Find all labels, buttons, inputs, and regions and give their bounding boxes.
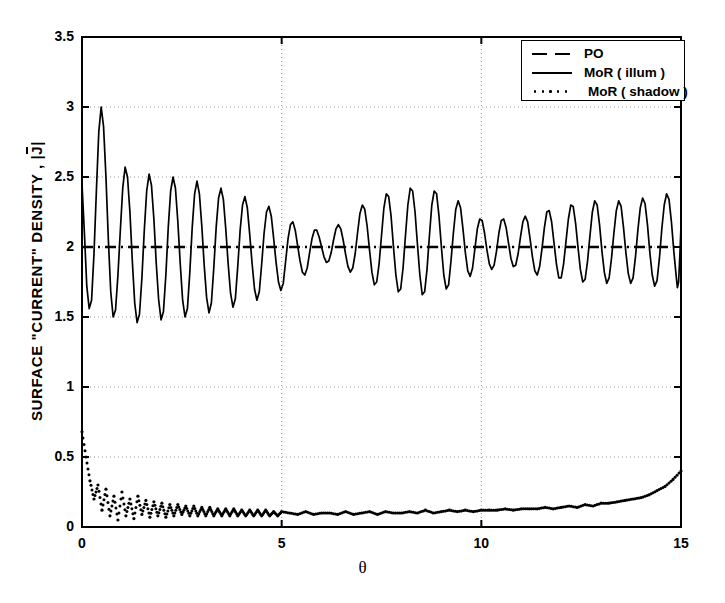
series-MoR ( shadow ) (80, 430, 682, 521)
legend-swatch-dotted (530, 85, 580, 99)
axis-tickmarks (82, 37, 681, 527)
legend-item-mor-shadow: MoR ( shadow ) (530, 82, 688, 101)
legend-item-mor-illum: MoR ( illum ) (530, 63, 665, 82)
x-tick-label: 0 (62, 535, 102, 551)
x-axis-label: θ (0, 558, 725, 578)
gridlines (82, 37, 681, 527)
y-tick-label: 1 (28, 378, 74, 394)
chart-legend: PO MoR ( illum ) MoR ( shadow ) (521, 40, 685, 101)
y-axis-label: SURFACE "CURRENT" DENSITY , |J| (27, 71, 45, 491)
data-series (80, 107, 682, 522)
series-MoR ( illum ) (82, 107, 681, 323)
x-tick-label: 5 (262, 535, 302, 551)
figure-container: SURFACE "CURRENT" DENSITY , |J| θ 00.511… (0, 0, 725, 603)
y-tick-label: 0 (28, 518, 74, 534)
legend-swatch-dashed (530, 47, 576, 61)
legend-item-po: PO (530, 44, 604, 63)
x-tick-label: 10 (461, 535, 501, 551)
y-tick-label: 3.5 (28, 28, 74, 44)
y-tick-label: 0.5 (28, 448, 74, 464)
j-vector-symbol: J (27, 146, 45, 155)
legend-label-po: PO (584, 46, 604, 61)
legend-label-mor-illum: MoR ( illum ) (584, 65, 665, 80)
y-tick-label: 2.5 (28, 168, 74, 184)
y-tick-label: 2 (28, 238, 74, 254)
plot-frame (82, 37, 681, 527)
y-tick-label: 1.5 (28, 308, 74, 324)
x-tick-label: 15 (661, 535, 701, 551)
legend-swatch-solid (530, 66, 576, 80)
y-tick-label: 3 (28, 98, 74, 114)
legend-label-mor-shadow: MoR ( shadow ) (588, 84, 688, 99)
